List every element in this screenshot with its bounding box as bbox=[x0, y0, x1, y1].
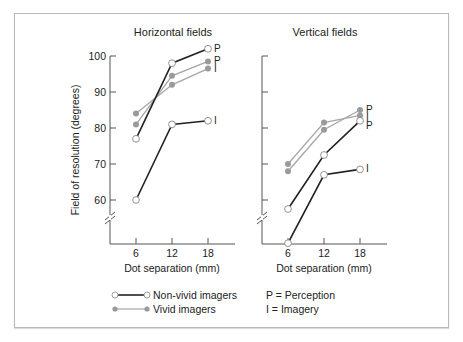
x-tick-label: 6 bbox=[285, 247, 291, 259]
legend-filled-circle-icon bbox=[112, 306, 117, 311]
series-end-label: I bbox=[366, 163, 369, 174]
data-point-filled bbox=[285, 161, 291, 167]
data-point-open bbox=[205, 45, 212, 52]
data-point-open bbox=[169, 121, 176, 128]
legend-open-circle-icon bbox=[112, 292, 118, 298]
series-line bbox=[288, 121, 360, 209]
legend-open-circle-icon bbox=[144, 292, 150, 298]
panel-vertical: 61218PIPI bbox=[257, 56, 387, 259]
series-line bbox=[288, 110, 360, 171]
data-point-open bbox=[133, 135, 140, 142]
data-point-open bbox=[321, 171, 328, 178]
x-tick-label: 12 bbox=[166, 247, 178, 259]
y-tick-label: 60 bbox=[94, 194, 106, 206]
legend-key-imagery: I = Imagery bbox=[266, 303, 320, 315]
y-axis-label: Field of resolution (degrees) bbox=[69, 85, 81, 216]
y-tick-label: 90 bbox=[94, 86, 106, 98]
legend-key-perception: P = Perception bbox=[266, 289, 335, 301]
legend: Non-vivid imagers Vivid imagers P = Perc… bbox=[112, 289, 335, 315]
legend-label-non-vivid: Non-vivid imagers bbox=[153, 289, 237, 301]
x-tick-label: 6 bbox=[133, 247, 139, 259]
data-point-filled bbox=[133, 111, 139, 117]
data-point-open bbox=[285, 240, 292, 247]
data-point-open bbox=[133, 197, 140, 204]
data-point-filled bbox=[169, 82, 175, 88]
data-point-filled bbox=[321, 120, 327, 126]
x-axis-label-horizontal: Dot separation (mm) bbox=[124, 262, 220, 274]
data-point-filled bbox=[205, 66, 211, 72]
series-end-label: I bbox=[214, 115, 217, 126]
data-point-open bbox=[205, 117, 212, 124]
panel-title-vertical: Vertical fields bbox=[293, 26, 358, 38]
data-point-filled bbox=[169, 73, 175, 79]
panel-title-horizontal: Horizontal fields bbox=[134, 26, 213, 38]
x-tick-label: 18 bbox=[354, 247, 366, 259]
y-tick-label: 100 bbox=[88, 50, 106, 62]
y-tick-label: 80 bbox=[94, 122, 106, 134]
data-point-open bbox=[169, 60, 176, 67]
y-tick-label: 70 bbox=[94, 158, 106, 170]
data-point-filled bbox=[321, 127, 327, 133]
data-point-filled bbox=[285, 168, 291, 174]
x-axis-label-vertical: Dot separation (mm) bbox=[276, 262, 372, 274]
panel-horizontal: 6070809010061218PPII bbox=[88, 43, 235, 259]
legend-label-vivid: Vivid imagers bbox=[153, 303, 216, 315]
legend-filled-circle-icon bbox=[144, 306, 149, 311]
series-end-label: I bbox=[214, 63, 217, 74]
data-point-open bbox=[285, 206, 292, 213]
data-point-open bbox=[321, 152, 328, 159]
data-point-filled bbox=[133, 121, 139, 127]
data-point-filled bbox=[205, 58, 211, 64]
data-point-open bbox=[357, 117, 364, 124]
chart-canvas: Horizontal fields Vertical fields Field … bbox=[0, 0, 463, 342]
series-end-label: P bbox=[366, 120, 373, 131]
series-end-label: P bbox=[214, 43, 221, 54]
series-line bbox=[288, 169, 360, 243]
data-point-filled bbox=[357, 107, 363, 113]
data-point-open bbox=[357, 166, 364, 173]
series-line bbox=[136, 121, 208, 200]
x-tick-label: 12 bbox=[318, 247, 330, 259]
x-tick-label: 18 bbox=[202, 247, 214, 259]
